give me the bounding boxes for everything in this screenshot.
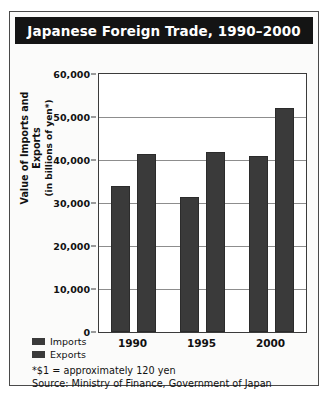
y-axis-tick-label: 60,000: [53, 69, 90, 80]
bar-imports-1990: [111, 186, 130, 332]
legend-swatch-exports: [32, 351, 45, 358]
y-axis-tick-label: 20,000: [53, 241, 90, 252]
chart-title-bar: Japanese Foreign Trade, 1990–2000: [15, 17, 313, 44]
legend-swatch-imports: [32, 338, 45, 345]
bar-exports-1995: [206, 152, 225, 332]
chart-figure: Japanese Foreign Trade, 1990–2000 Value …: [9, 11, 319, 386]
plot-area: [99, 74, 306, 332]
x-axis-label-1990: 1990: [118, 337, 147, 349]
y-axis-tick-mark: [91, 289, 96, 290]
footnote-1: *$1 = approximately 120 yen: [32, 364, 307, 377]
bar-imports-2000: [249, 156, 268, 332]
bar-exports-1990: [137, 154, 156, 332]
y-axis-tick-mark: [91, 332, 96, 333]
y-axis-tick-label: 30,000: [53, 198, 90, 209]
x-axis-label-1995: 1995: [187, 337, 216, 349]
y-axis-tick-mark: [91, 117, 96, 118]
bar-exports-2000: [275, 108, 294, 332]
y-axis-tick-mark: [91, 74, 96, 75]
page-title: Japanese Foreign Trade, 1990–2000: [27, 23, 300, 39]
legend-label-imports: Imports: [50, 336, 86, 347]
y-axis-tick-label: 10,000: [53, 284, 90, 295]
y-axis-tick-mark: [91, 203, 96, 204]
x-axis-labels: 199019952000: [98, 337, 307, 353]
bar-imports-1995: [180, 197, 199, 332]
y-axis-tick-label: 50,000: [53, 112, 90, 123]
chart-legend: ImportsExports: [32, 336, 86, 362]
y-axis-tick-label: 40,000: [53, 155, 90, 166]
plot-frame: [98, 73, 307, 333]
legend-item-exports: Exports: [32, 349, 86, 360]
y-axis-tick-mark: [91, 246, 96, 247]
y-axis-ticks: 010,00020,00030,00040,00050,00060,000: [30, 73, 96, 333]
footnote-2: Source: Ministry of Finance, Government …: [32, 377, 307, 390]
legend-item-imports: Imports: [32, 336, 86, 347]
chart-footnotes: *$1 = approximately 120 yenSource: Minis…: [32, 364, 307, 390]
y-axis-tick-mark: [91, 160, 96, 161]
x-axis-label-2000: 2000: [256, 337, 285, 349]
legend-label-exports: Exports: [50, 349, 86, 360]
